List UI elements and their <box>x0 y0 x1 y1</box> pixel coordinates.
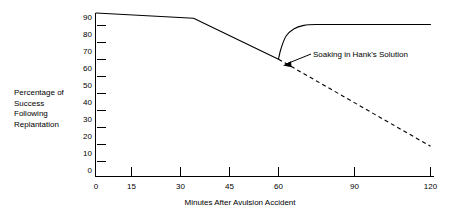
y-tick-label: 60 <box>83 64 92 73</box>
series-line-untreated-decline <box>96 13 279 59</box>
x-tick-label: 15 <box>127 182 136 191</box>
y-tick-label: 0 <box>88 166 93 175</box>
x-tick-label: 120 <box>424 182 438 191</box>
y-tick-label: 40 <box>83 98 92 107</box>
y-tick-label: 10 <box>83 149 92 158</box>
x-axis-title: Minutes After Avulsion Accident <box>184 198 296 207</box>
y-tick-label: 80 <box>83 30 92 39</box>
y-tick-label: 90 <box>83 13 92 22</box>
y-tick-labels: 90 80 70 60 50 40 30 20 10 0 <box>83 13 92 175</box>
line-chart: 90 80 70 60 50 40 30 20 10 0 0 15 30 45 … <box>0 0 449 212</box>
y-tick-label: 70 <box>83 47 92 56</box>
y-tick-marks <box>97 26 106 162</box>
y-tick-label: 30 <box>83 115 92 124</box>
series-line-no-soaking-projected <box>279 59 431 146</box>
x-tick-marks <box>132 167 431 176</box>
x-tick-label: 45 <box>225 182 234 191</box>
x-tick-label: 30 <box>176 182 185 191</box>
x-tick-label: 60 <box>274 182 283 191</box>
x-tick-label: 90 <box>350 182 359 191</box>
x-tick-label: 0 <box>94 182 99 191</box>
arrowhead-icon <box>283 61 292 67</box>
y-tick-label: 50 <box>83 81 92 90</box>
y-tick-label: 20 <box>83 132 92 141</box>
annotation-leader <box>283 54 311 67</box>
x-tick-labels: 0 15 30 45 60 90 120 <box>94 182 438 191</box>
chart-page: Percentage of Success Following Replanta… <box>0 0 449 212</box>
annotation-soaking-label: Soaking in Hank's Solution <box>313 50 408 59</box>
